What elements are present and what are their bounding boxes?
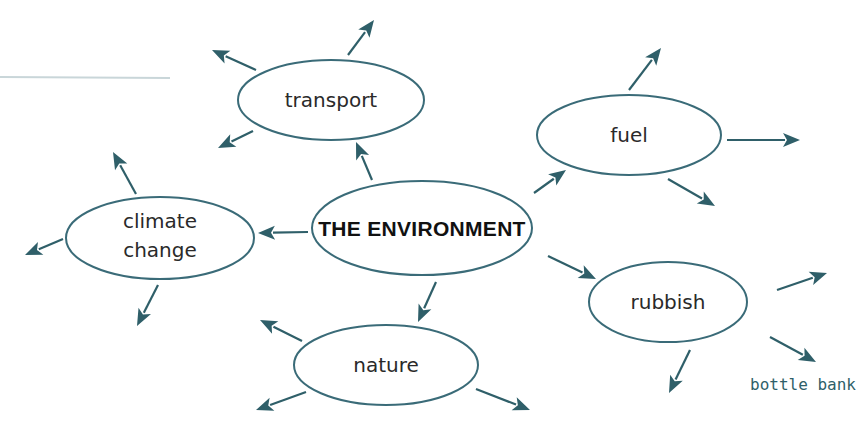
arrow-nature-branch — [256, 392, 306, 411]
arrow-shaft — [668, 179, 702, 199]
topic-node-fuel: fuel — [537, 95, 721, 175]
arrow-head-icon — [783, 133, 800, 147]
center-node-label: THE ENVIRONMENT — [318, 217, 526, 240]
arrow-nature-branch — [260, 320, 302, 341]
arrow-nature-branch — [476, 389, 530, 410]
arrow-shaft — [777, 278, 813, 290]
arrow-rubbish-to-bottle-bank — [770, 337, 816, 362]
topic-label-nature: nature — [353, 353, 419, 377]
arrow-shaft — [362, 156, 372, 180]
arrow-climate-branch — [113, 152, 136, 194]
topic-label-fuel: fuel — [610, 123, 648, 147]
arrow-shaft — [270, 392, 306, 405]
arrow-transport-branch — [212, 50, 256, 70]
arrow-rubbish-branch — [669, 350, 690, 393]
arrow-shaft — [144, 285, 158, 313]
topic-label-climate-change-line2: change — [123, 238, 197, 262]
topic-label-rubbish: rubbish — [631, 290, 706, 314]
arrow-climate-branch — [137, 285, 158, 326]
arrow-shaft — [120, 165, 136, 194]
topic-label-transport: transport — [285, 88, 378, 112]
arrow-shaft — [348, 32, 365, 55]
arrow-fuel-branch — [727, 133, 800, 147]
arrow-center-to-transport — [356, 142, 372, 180]
mind-map-diagram: THE ENVIRONMENT transport fuel climate c… — [0, 0, 866, 438]
arrow-shaft — [770, 337, 803, 355]
topic-label-climate-change-line1: climate — [123, 209, 197, 233]
arrow-shaft — [548, 256, 582, 273]
arrow-shaft — [273, 232, 308, 233]
arrow-head-icon — [548, 170, 566, 186]
topic-node-climate-change: climate change — [66, 197, 254, 279]
arrow-head-icon — [645, 48, 661, 66]
arrow-head-icon — [697, 191, 715, 206]
arrow-shaft — [231, 131, 253, 141]
annotation-bottle-bank: bottle bank — [750, 375, 856, 394]
arrow-shaft — [676, 350, 690, 380]
arrow-climate-branch — [25, 239, 63, 255]
arrow-center-to-climate — [258, 226, 308, 240]
arrow-head-icon — [258, 226, 275, 240]
arrow-center-to-rubbish — [548, 256, 596, 279]
arrow-rubbish-branch — [777, 272, 827, 290]
center-node: THE ENVIRONMENT — [312, 181, 532, 275]
arrow-shaft — [424, 282, 436, 308]
arrow-shaft — [629, 60, 652, 90]
arrow-center-to-nature — [418, 282, 436, 322]
arrow-transport-branch — [218, 131, 253, 148]
scan-smudge-line — [0, 77, 170, 78]
arrow-shaft — [476, 389, 516, 405]
arrow-shaft — [39, 239, 63, 249]
topic-node-rubbish: rubbish — [589, 262, 747, 342]
arrow-center-to-fuel — [534, 170, 566, 193]
arrow-shaft — [226, 56, 256, 70]
arrow-shaft — [534, 179, 554, 193]
arrow-head-icon — [798, 348, 816, 362]
arrow-fuel-branch — [668, 179, 715, 206]
topic-node-transport: transport — [238, 60, 424, 140]
topic-node-nature: nature — [294, 325, 478, 405]
arrow-transport-branch — [348, 20, 374, 55]
arrow-head-icon — [113, 152, 127, 170]
arrow-head-icon — [358, 20, 374, 38]
arrow-shaft — [273, 327, 302, 341]
arrow-fuel-branch — [629, 48, 661, 90]
